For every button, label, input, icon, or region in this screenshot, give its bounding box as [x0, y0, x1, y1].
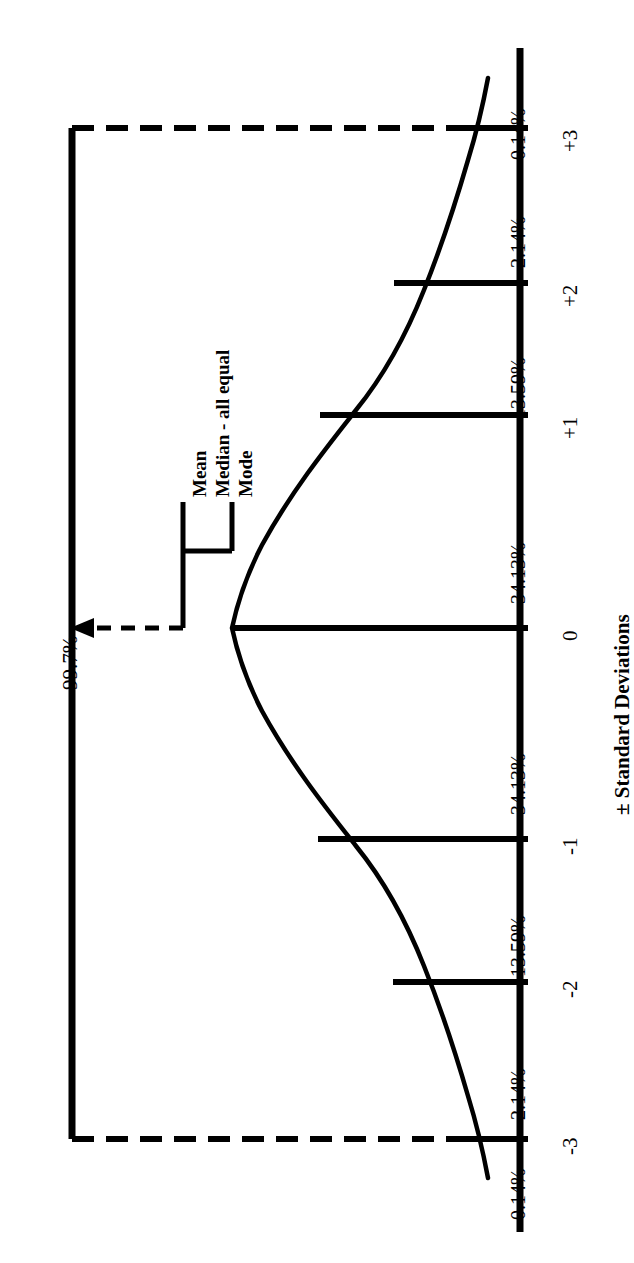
- band-label-minus3tominus2: 2.14%: [508, 1068, 528, 1120]
- total-percent-label: 99.7%: [60, 636, 81, 690]
- annotation-mode: Mode: [236, 451, 255, 497]
- tick-label-minus1: -1: [560, 838, 581, 856]
- tick-label-plus3: +3: [560, 130, 581, 152]
- band-label-minus1to0: 34.13%: [508, 753, 528, 815]
- tick-label-minus2: -2: [560, 981, 581, 999]
- band-label-0to1: 34.13%: [508, 542, 528, 604]
- annotation-mean: Mean: [190, 451, 209, 497]
- tick-label-minus3: -3: [560, 1138, 581, 1156]
- band-label-2to3: 2.14%: [508, 216, 528, 268]
- band-label-minus2tominus1: 13.59%: [508, 915, 528, 977]
- normal-distribution-drawing: [0, 0, 634, 1263]
- figure-canvas: 99.7% 0.14% 2.14% 13.59% 34.13% 34.13% 1…: [0, 0, 634, 1263]
- band-label-plus3-tail: 0.14%: [508, 108, 528, 160]
- tick-label-zero: 0: [560, 631, 581, 642]
- tick-label-plus2: +2: [560, 285, 581, 307]
- axis-title: ± Standard Deviations: [612, 614, 633, 815]
- annotation-median: Median - all equal: [213, 350, 232, 497]
- band-label-1to2: 13.59%: [508, 357, 528, 419]
- tick-label-plus1: +1: [560, 417, 581, 439]
- band-label-minus3-tail: 0.14%: [508, 1168, 528, 1220]
